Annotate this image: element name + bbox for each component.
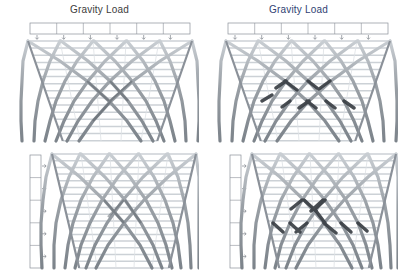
- panel-top-left: Gravity Load: [0, 0, 199, 145]
- figure-canvas: Gravity Load: [0, 0, 398, 278]
- gravity-load-bar-top-right: [228, 23, 388, 39]
- lateral-load-bar-bottom-right: [230, 155, 246, 268]
- panel-top-right: Gravity Load: [199, 0, 398, 145]
- panel-bottom-right: Lateral Load: [199, 145, 398, 278]
- diagrid-model-top-right: [199, 0, 398, 145]
- panel-bottom-left: Lateral Load: [0, 145, 199, 278]
- diagrid-model-bottom-right: [199, 145, 398, 278]
- diagrid-model-bottom-left: [0, 145, 199, 278]
- lateral-load-bar-bottom-left: [30, 155, 46, 268]
- gravity-load-bar-top-left: [30, 23, 190, 39]
- diagrid-model-top-left: [0, 0, 199, 145]
